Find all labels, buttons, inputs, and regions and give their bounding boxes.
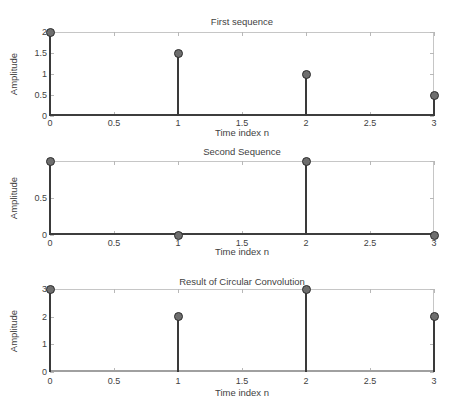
x-tick-mark-top: [306, 32, 307, 36]
stem-marker: [174, 312, 183, 321]
x-tick-label: 1: [158, 118, 198, 128]
x-tick-mark-top: [370, 161, 371, 165]
y-tick-label: 1: [13, 339, 47, 349]
y-tick-label: 0: [13, 111, 47, 121]
y-tick-label: 0: [13, 367, 47, 377]
y-tick-mark-right: [430, 372, 434, 373]
x-tick-label: 1: [158, 238, 198, 248]
stem-baseline: [50, 114, 434, 116]
y-tick-mark-right: [430, 116, 434, 117]
x-tick-label: 1.5: [222, 118, 262, 128]
y-tick-mark-right: [430, 53, 434, 54]
x-tick-mark-top: [114, 161, 115, 165]
y-tick-mark: [50, 235, 54, 236]
stem-line: [305, 289, 308, 372]
stem-line: [49, 32, 52, 116]
y-axis-label: Amplitude: [8, 281, 20, 381]
y-tick-label: 2: [13, 312, 47, 322]
x-tick-mark-top: [114, 289, 115, 293]
axis-box: [50, 32, 434, 116]
matlab-figure-canvas: First sequence Amplitude Time index n 00…: [0, 0, 463, 410]
stem-baseline: [50, 233, 434, 235]
stem-baseline: [50, 370, 434, 372]
stem-marker: [174, 231, 183, 240]
x-tick-label: 1.5: [222, 376, 262, 386]
axis-box: [50, 289, 434, 372]
x-tick-label: 1.5: [222, 238, 262, 248]
x-tick-label: 2: [286, 238, 326, 248]
x-tick-label: 3: [414, 376, 454, 386]
y-tick-mark-right: [430, 198, 434, 199]
stem-marker: [302, 285, 311, 294]
stem-line: [305, 74, 308, 116]
y-tick-mark-right: [430, 161, 434, 162]
stem-marker: [46, 285, 55, 294]
x-axis-label: Time index n: [50, 387, 434, 398]
y-tick-label: 0.5: [13, 90, 47, 100]
x-tick-mark-top: [370, 32, 371, 36]
x-tick-mark-top: [434, 161, 435, 165]
plot-title: Result of Circular Convolution: [50, 276, 434, 287]
y-tick-label: 1.5: [13, 48, 47, 58]
x-tick-mark-top: [178, 32, 179, 36]
x-tick-label: 0.5: [94, 376, 134, 386]
x-tick-label: 3: [414, 238, 454, 248]
y-tick-mark-right: [430, 289, 434, 290]
x-tick-mark-top: [434, 289, 435, 293]
stem-marker: [302, 157, 311, 166]
stem-marker: [174, 49, 183, 58]
stem-marker: [302, 70, 311, 79]
y-tick-label: 3: [13, 284, 47, 294]
y-tick-label: 0.5: [13, 193, 47, 203]
plot-area: [50, 161, 434, 235]
x-tick-label: 2.5: [350, 118, 390, 128]
stem-marker: [430, 231, 439, 240]
x-tick-label: 2.5: [350, 238, 390, 248]
plot-area: [50, 32, 434, 116]
x-tick-mark-top: [370, 289, 371, 293]
x-tick-mark-top: [434, 32, 435, 36]
y-tick-mark: [50, 372, 54, 373]
stem-marker: [430, 91, 439, 100]
plot-title: First sequence: [50, 16, 434, 27]
y-tick-mark-right: [430, 74, 434, 75]
x-tick-mark-top: [242, 161, 243, 165]
stem-line: [49, 289, 52, 372]
x-tick-label: 2.5: [350, 376, 390, 386]
x-tick-label: 1: [158, 376, 198, 386]
x-tick-label: 0: [30, 376, 70, 386]
plot-area: [50, 289, 434, 372]
x-tick-mark-top: [178, 161, 179, 165]
stem-line: [177, 317, 180, 372]
x-tick-label: 2: [286, 118, 326, 128]
x-tick-label: 0.5: [94, 238, 134, 248]
axis-box: [50, 161, 434, 235]
stem-marker: [430, 312, 439, 321]
stem-marker: [46, 28, 55, 37]
stem-line: [49, 161, 52, 235]
y-tick-label: 1: [13, 69, 47, 79]
stem-line: [177, 53, 180, 116]
y-tick-label: 2: [13, 27, 47, 37]
x-axis-label: Time index n: [50, 127, 434, 138]
x-tick-mark-top: [114, 32, 115, 36]
stem-marker: [46, 157, 55, 166]
x-tick-label: 3: [414, 118, 454, 128]
plot-title: Second Sequence: [50, 146, 434, 157]
y-tick-label: 0: [13, 230, 47, 240]
y-tick-mark-right: [430, 32, 434, 33]
x-tick-mark-top: [242, 32, 243, 36]
x-tick-mark-top: [242, 289, 243, 293]
x-tick-mark-top: [178, 289, 179, 293]
stem-line: [305, 161, 308, 235]
stem-line: [433, 317, 436, 372]
x-tick-label: 2: [286, 376, 326, 386]
y-tick-mark: [50, 116, 54, 117]
x-tick-label: 0.5: [94, 118, 134, 128]
